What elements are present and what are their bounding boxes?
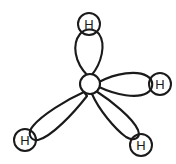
orbital-diagram: H H H H [0, 0, 176, 164]
hydrogen-label-right: H [155, 77, 164, 92]
hydrogen-label-top: H [84, 17, 93, 32]
orbital-lobe-right [99, 73, 152, 96]
orbital-lobe-top [75, 30, 102, 77]
orbital-lobe-bottom-right [92, 91, 139, 139]
orbital-lobe-bottom-left [30, 92, 87, 140]
hydrogen-label-bottom-right: H [136, 138, 145, 153]
hydrogen-label-bottom-left: H [20, 133, 29, 148]
central-atom-circle [80, 74, 100, 94]
orbital-diagram-canvas: H H H H [0, 0, 176, 164]
